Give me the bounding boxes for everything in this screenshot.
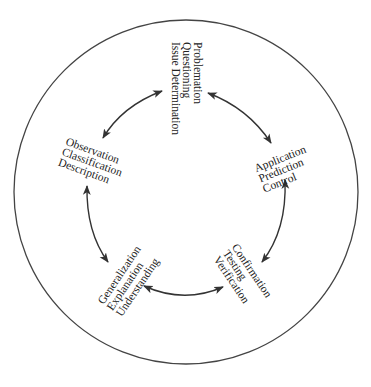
node-line: Problemation [192, 42, 203, 135]
arrow-observation-problemation [103, 91, 162, 138]
arrow-problemation-application [208, 93, 271, 143]
arrow-confirmation-generalization [144, 286, 223, 295]
arrow-generalization-observation [87, 186, 108, 262]
node-problemation: Problemation Questioning Issue Determina… [170, 42, 203, 135]
node-line: Issue Determination [170, 42, 181, 135]
node-line: Questioning [181, 42, 192, 135]
